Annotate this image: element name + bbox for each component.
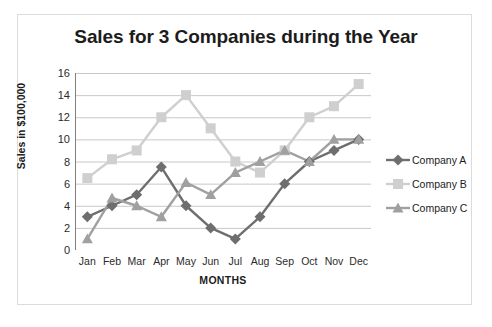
series-line bbox=[87, 84, 358, 178]
data-point-square bbox=[230, 157, 240, 167]
x-axis-title: MONTHS bbox=[75, 274, 371, 286]
data-point-square bbox=[304, 112, 314, 122]
x-tick-label: Mar bbox=[128, 255, 146, 267]
data-point-square bbox=[107, 154, 117, 164]
y-tick-label: 4 bbox=[64, 200, 70, 212]
gridlines bbox=[75, 74, 371, 251]
data-point-square bbox=[206, 123, 216, 133]
series-markers bbox=[82, 79, 363, 183]
x-tick-label: Sep bbox=[275, 255, 294, 267]
y-tick-label: 14 bbox=[58, 89, 70, 101]
data-point-square bbox=[156, 112, 166, 122]
data-point-square bbox=[82, 173, 92, 183]
data-point-square bbox=[354, 79, 364, 89]
legend-marker-square-icon bbox=[385, 177, 411, 191]
data-point-square bbox=[329, 101, 339, 111]
chart-title: Sales for 3 Companies during the Year bbox=[0, 26, 492, 48]
legend-label: Company C bbox=[412, 202, 467, 214]
data-point-diamond bbox=[393, 155, 404, 166]
x-tick-label: Nov bbox=[325, 255, 344, 267]
x-tick-label: Feb bbox=[103, 255, 121, 267]
x-tick-label: Oct bbox=[301, 255, 317, 267]
data-point-square bbox=[181, 90, 191, 100]
legend-marker-triangle-icon bbox=[385, 201, 411, 215]
legend-item-company-c[interactable]: Company C bbox=[385, 196, 480, 220]
chart-legend: Company ACompany BCompany C bbox=[385, 148, 480, 220]
legend-item-company-b[interactable]: Company B bbox=[385, 172, 480, 196]
y-tick-label: 0 bbox=[64, 244, 70, 256]
data-point-diamond bbox=[329, 145, 340, 156]
x-tick-label: Jan bbox=[79, 255, 96, 267]
y-axis-ticks: 0246810121416 bbox=[44, 73, 70, 250]
series-company-b bbox=[87, 84, 358, 178]
y-tick-label: 8 bbox=[64, 156, 70, 168]
legend-marker-diamond-icon bbox=[385, 153, 411, 167]
y-tick-label: 12 bbox=[58, 111, 70, 123]
data-point-square bbox=[255, 168, 265, 178]
y-tick-label: 16 bbox=[58, 67, 70, 79]
legend-label: Company A bbox=[412, 154, 466, 166]
x-tick-label: Jun bbox=[202, 255, 219, 267]
data-point-diamond bbox=[82, 211, 93, 222]
y-tick-label: 2 bbox=[64, 222, 70, 234]
chart-screenshot: Sales for 3 Companies during the Year Sa… bbox=[0, 0, 492, 327]
y-tick-label: 10 bbox=[58, 133, 70, 145]
x-tick-label: May bbox=[176, 255, 196, 267]
y-axis-title: Sales in $100,000 bbox=[15, 61, 27, 191]
x-tick-label: Apr bbox=[153, 255, 169, 267]
data-point-square bbox=[393, 179, 403, 189]
plot-svg bbox=[75, 73, 371, 250]
x-tick-label: Jul bbox=[229, 255, 242, 267]
legend-label: Company B bbox=[412, 178, 467, 190]
y-tick-label: 6 bbox=[64, 178, 70, 190]
x-axis-ticks: JanFebMarAprMayJunJulAugSepOctNovDec bbox=[75, 255, 371, 271]
plot-area bbox=[75, 73, 371, 250]
data-point-triangle bbox=[107, 193, 118, 203]
data-point-triangle bbox=[82, 233, 93, 243]
x-tick-label: Dec bbox=[349, 255, 368, 267]
x-tick-label: Aug bbox=[251, 255, 270, 267]
data-point-square bbox=[132, 145, 142, 155]
data-point-triangle bbox=[181, 177, 192, 187]
legend-item-company-a[interactable]: Company A bbox=[385, 148, 480, 172]
